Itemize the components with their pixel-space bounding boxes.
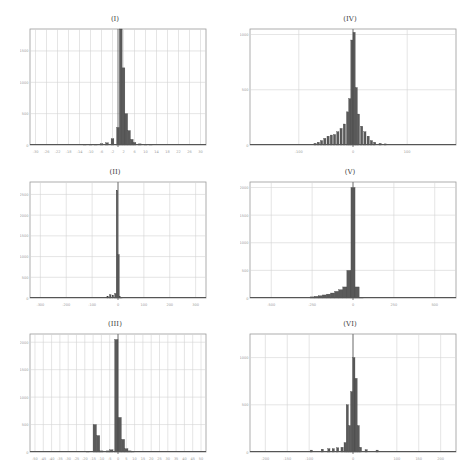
svg-text:2500: 2500 [20, 193, 29, 197]
svg-text:100: 100 [393, 457, 400, 461]
panel-title: (V) [240, 168, 460, 176]
svg-text:1500: 1500 [20, 234, 29, 238]
svg-text:0: 0 [246, 297, 248, 301]
panel-title: (II) [20, 168, 210, 176]
svg-text:40: 40 [182, 457, 186, 461]
svg-text:1000: 1000 [20, 255, 29, 259]
svg-text:15: 15 [141, 457, 145, 461]
svg-text:-6: -6 [100, 150, 104, 154]
svg-text:0: 0 [246, 451, 248, 455]
svg-text:14: 14 [154, 150, 159, 154]
svg-text:5: 5 [125, 457, 127, 461]
svg-text:18: 18 [165, 150, 169, 154]
svg-text:2: 2 [122, 150, 124, 154]
svg-text:-26: -26 [44, 150, 50, 154]
svg-text:200: 200 [437, 457, 444, 461]
svg-text:-15: -15 [90, 457, 96, 461]
svg-text:0: 0 [117, 457, 119, 461]
svg-text:500: 500 [242, 88, 249, 92]
svg-text:0: 0 [26, 297, 28, 301]
svg-text:-250: -250 [308, 303, 316, 307]
svg-text:2000: 2000 [240, 186, 249, 190]
svg-text:300: 300 [192, 303, 199, 307]
svg-text:1000: 1000 [20, 396, 29, 400]
svg-text:100: 100 [141, 303, 148, 307]
svg-text:1500: 1500 [20, 49, 29, 53]
panel-ii: (II) -300-200-10001002003000500100015002… [20, 168, 210, 313]
svg-text:0: 0 [352, 303, 354, 307]
svg-text:0: 0 [117, 303, 119, 307]
svg-text:-14: -14 [77, 150, 83, 154]
svg-text:250: 250 [391, 303, 398, 307]
svg-text:-100: -100 [88, 303, 96, 307]
svg-text:500: 500 [22, 276, 29, 280]
svg-text:-22: -22 [55, 150, 61, 154]
svg-text:500: 500 [431, 303, 438, 307]
panel-vi: (VI) -200-150-100010015020005001000 [240, 320, 460, 467]
svg-text:0: 0 [352, 457, 354, 461]
svg-text:-200: -200 [62, 303, 70, 307]
histogram-plot: -30-26-22-18-14-10-6-2261014182226300500… [20, 27, 210, 157]
panel-title: (IV) [240, 15, 460, 23]
svg-text:10: 10 [143, 150, 147, 154]
svg-text:-10: -10 [99, 457, 105, 461]
panel-iii: (III) -50-45-40-35-30-25-20-15-10-505101… [20, 320, 210, 467]
svg-text:-100: -100 [295, 150, 303, 154]
page-header-remnant [0, 0, 462, 6]
svg-text:0: 0 [246, 144, 248, 148]
svg-text:-18: -18 [66, 150, 72, 154]
histogram-plot: -100010005001000 [240, 27, 460, 157]
svg-text:500: 500 [22, 112, 29, 116]
svg-text:6: 6 [133, 150, 135, 154]
svg-text:-40: -40 [49, 457, 55, 461]
svg-text:25: 25 [157, 457, 161, 461]
svg-text:150: 150 [415, 457, 422, 461]
svg-text:-30: -30 [33, 150, 39, 154]
svg-text:35: 35 [174, 457, 178, 461]
svg-text:500: 500 [242, 269, 249, 273]
svg-text:20: 20 [149, 457, 153, 461]
svg-text:-100: -100 [305, 457, 313, 461]
svg-text:1000: 1000 [240, 241, 249, 245]
svg-text:-35: -35 [57, 457, 63, 461]
svg-text:-500: -500 [267, 303, 275, 307]
svg-text:-30: -30 [65, 457, 71, 461]
svg-text:-5: -5 [108, 457, 112, 461]
svg-text:-150: -150 [283, 457, 291, 461]
svg-text:10: 10 [132, 457, 136, 461]
panel-v: (V) -500-25002505000500100015002000 [240, 168, 460, 313]
panel-iv: (IV) -100010005001000 [240, 15, 460, 160]
svg-text:-200: -200 [261, 457, 269, 461]
svg-text:0: 0 [26, 144, 28, 148]
histogram-plot: -50-45-40-35-30-25-20-15-10-505101520253… [20, 332, 210, 464]
svg-text:-45: -45 [40, 457, 46, 461]
svg-text:30: 30 [198, 150, 202, 154]
svg-text:50: 50 [199, 457, 203, 461]
panel-title: (III) [20, 320, 210, 328]
svg-text:45: 45 [190, 457, 194, 461]
svg-text:22: 22 [176, 150, 180, 154]
svg-text:500: 500 [22, 423, 29, 427]
histogram-plot: -500-25002505000500100015002000 [240, 180, 460, 310]
svg-text:30: 30 [166, 457, 170, 461]
svg-text:100: 100 [404, 150, 411, 154]
svg-text:1500: 1500 [240, 214, 249, 218]
svg-text:1000: 1000 [20, 81, 29, 85]
svg-text:2000: 2000 [20, 341, 29, 345]
svg-text:1000: 1000 [240, 33, 249, 37]
svg-text:-300: -300 [36, 303, 44, 307]
svg-text:0: 0 [26, 451, 28, 455]
histogram-plot: -200-150-100010015020005001000 [240, 332, 460, 464]
panel-title: (VI) [240, 320, 460, 328]
svg-text:-25: -25 [74, 457, 80, 461]
svg-text:200: 200 [166, 303, 173, 307]
svg-text:0: 0 [352, 150, 354, 154]
svg-text:26: 26 [187, 150, 191, 154]
histogram-plot: -300-200-1000100200300050010001500200025… [20, 180, 210, 310]
panel-i: (I) -30-26-22-18-14-10-6-226101418222630… [20, 15, 210, 160]
svg-text:-50: -50 [32, 457, 38, 461]
svg-text:1000: 1000 [240, 356, 249, 360]
svg-text:500: 500 [242, 403, 249, 407]
svg-text:-2: -2 [111, 150, 115, 154]
svg-text:2000: 2000 [20, 214, 29, 218]
